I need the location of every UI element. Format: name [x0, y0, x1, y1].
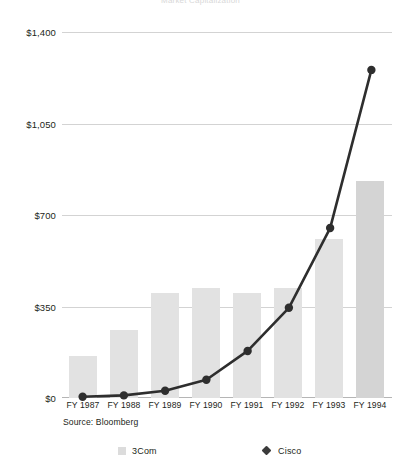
x-axis-labels: FY 1987 FY 1988 FY 1989 FY 1990 FY 1991 …: [62, 400, 392, 414]
y-axis-labels: $1,400 $1,050 $700 $350 $0: [0, 32, 56, 398]
legend-label: Cisco: [278, 446, 302, 456]
legend-item-cisco: Cisco: [262, 443, 302, 459]
y-tick-label: $350: [4, 301, 56, 312]
chart-container: Market Capitalization $1,400 $1,050 $700…: [0, 0, 401, 465]
y-tick-label: $0: [4, 393, 56, 404]
legend-square-icon: [118, 447, 126, 455]
data-point-fy1992: [285, 304, 293, 312]
data-point-fy1988: [120, 391, 128, 399]
data-point-fy1990: [202, 376, 210, 384]
legend-diamond-icon: [262, 446, 272, 456]
chart-legend: 3Com Cisco: [0, 443, 401, 459]
chart-title: Market Capitalization: [0, 0, 401, 5]
data-point-fy1989: [161, 386, 169, 394]
y-tick-label: $1,400: [4, 27, 56, 38]
line-series-cisco: [62, 32, 392, 398]
data-point-fy1994: [367, 66, 375, 74]
legend-label: 3Com: [132, 446, 157, 456]
source-note: Source: Bloomberg: [63, 417, 138, 427]
data-point-fy1993: [326, 224, 334, 232]
y-tick-label: $700: [4, 210, 56, 221]
plot-area: [62, 32, 392, 398]
legend-item-3com: 3Com: [118, 443, 157, 459]
x-tick-label: FY 1994: [345, 400, 395, 410]
data-point-fy1991: [243, 347, 251, 355]
y-tick-label: $1,050: [4, 118, 56, 129]
